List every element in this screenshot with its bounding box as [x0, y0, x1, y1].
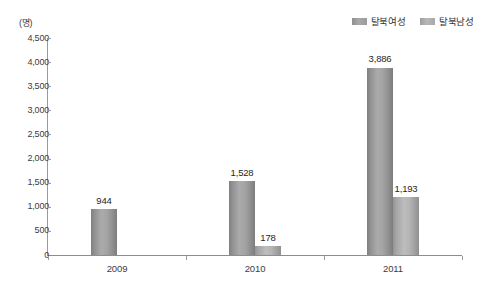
bar-male[interactable]	[393, 197, 419, 255]
legend-item-female: 탈북여성	[352, 14, 406, 28]
chart-legend: 탈북여성 탈북남성	[352, 14, 474, 28]
y-axis-unit-label: (명)	[19, 16, 32, 29]
x-axis-tick-mark	[324, 256, 325, 260]
bar-group: 1,528178	[229, 38, 281, 255]
legend-item-male: 탈북남성	[420, 14, 474, 28]
bar-female[interactable]	[91, 209, 117, 255]
bar-male[interactable]	[255, 246, 281, 255]
bar-value-label: 1,528	[217, 168, 267, 178]
x-axis-category-label: 2010	[220, 263, 290, 274]
bar-chart: 탈북여성 탈북남성 (명) 4,5004,0003,5003,0002,5002…	[0, 0, 482, 287]
bar-value-label: 1,193	[381, 184, 431, 194]
bar-female[interactable]	[229, 181, 255, 255]
legend-swatch-female-icon	[352, 18, 367, 25]
bar-female[interactable]	[367, 68, 393, 255]
bar-value-label: 178	[243, 233, 293, 243]
bar-group: 944	[91, 38, 143, 255]
x-axis-tick-mark	[48, 256, 49, 260]
x-axis-tick-mark	[462, 256, 463, 260]
x-axis-line	[47, 255, 462, 256]
bar-value-label: 944	[79, 196, 129, 206]
x-axis-category-label: 2011	[358, 263, 428, 274]
legend-label-female: 탈북여성	[371, 14, 406, 28]
x-axis-tick-mark	[186, 256, 187, 260]
bar-group: 3,8861,193	[367, 38, 419, 255]
legend-swatch-male-icon	[420, 18, 435, 25]
x-axis-category-label: 2009	[82, 263, 152, 274]
plot-area: 9441,5281783,8861,193	[48, 38, 462, 255]
bar-value-label: 3,886	[355, 54, 405, 64]
legend-label-male: 탈북남성	[439, 14, 474, 28]
